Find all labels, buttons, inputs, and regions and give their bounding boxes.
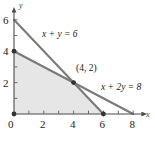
figure-caption <box>0 133 155 141</box>
marker-x-intercept-6 <box>101 112 106 117</box>
marker-y-intercept-4 <box>12 49 17 54</box>
linear-programming-figure: y x 0 2 4 6 8 2 4 6 x + y = 6 x + 2y = 8… <box>0 0 155 141</box>
marker-origin <box>12 112 17 117</box>
plot-canvas <box>0 0 155 141</box>
feasible-region-shading <box>14 51 103 114</box>
marker-vertex-4-2 <box>71 80 76 85</box>
